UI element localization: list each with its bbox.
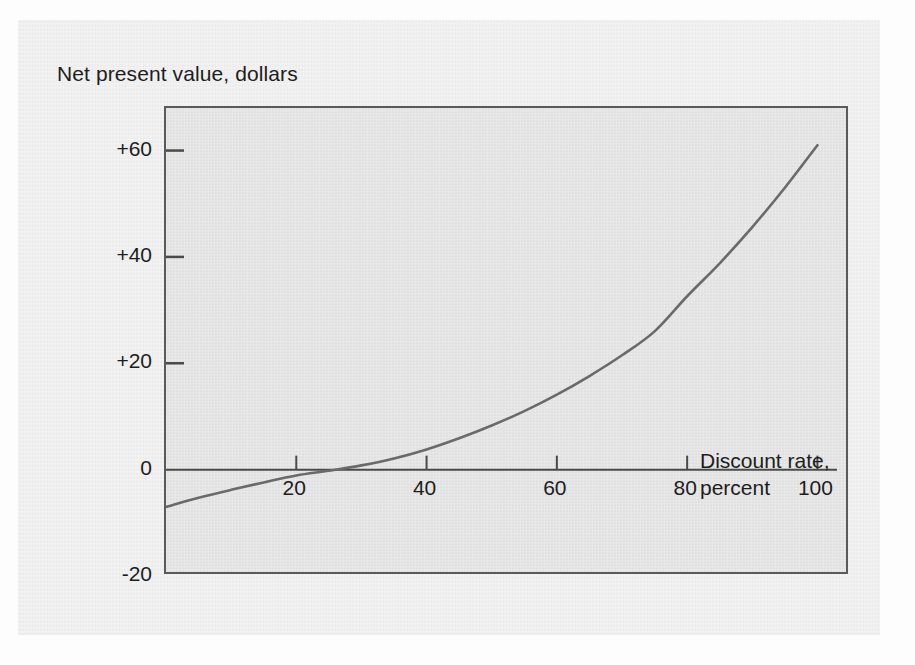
y-tick-label: +20	[60, 349, 152, 373]
y-axis-ticks	[166, 151, 184, 364]
x-axis-title-line2: percent	[700, 474, 830, 501]
x-axis-title: Discount rate, percent	[700, 447, 830, 501]
plot-area	[164, 106, 848, 574]
plot-svg	[166, 108, 850, 576]
x-axis-title-line1: Discount rate,	[700, 447, 830, 474]
x-tick-label: 60	[543, 476, 566, 500]
y-tick-label: +40	[60, 243, 152, 267]
x-tick-label: 20	[283, 476, 306, 500]
y-tick-label: +60	[60, 137, 152, 161]
figure-root: Net present value, dollars -200+20+40+60…	[0, 0, 915, 665]
y-tick-label: -20	[60, 562, 152, 586]
y-tick-label: 0	[60, 456, 152, 480]
y-axis-title: Net present value, dollars	[57, 62, 298, 86]
x-tick-label: 80	[673, 476, 696, 500]
x-tick-label: 40	[413, 476, 436, 500]
